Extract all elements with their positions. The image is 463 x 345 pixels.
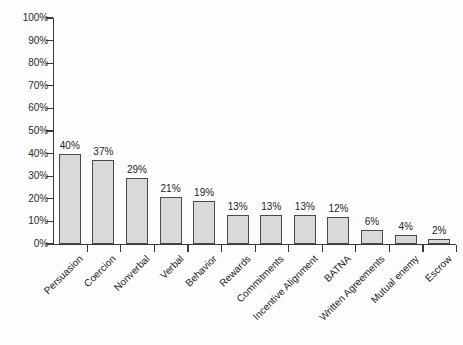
x-axis-category-labels: PersuasionCoercionNonverbalVerbalBehavio… [0,0,463,345]
bar-chart-figure: 0%10%20%30%40%50%60%70%80%90%100% 40%37%… [0,0,463,345]
